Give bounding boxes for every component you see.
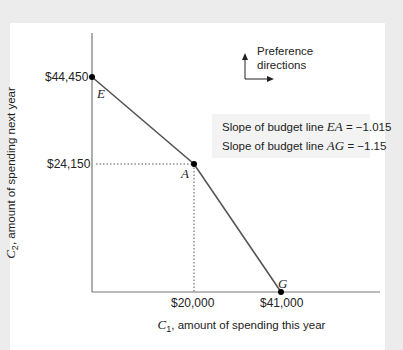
y-tick-44450: $44,450 — [45, 70, 88, 84]
point-e-label: E — [97, 86, 105, 102]
budget-line — [92, 77, 281, 292]
x-axis-label: C1, amount of spending this year — [0, 317, 403, 334]
preference-label-line2: directions — [257, 59, 306, 71]
point-g-label: G — [278, 276, 287, 292]
point-a-label: A — [181, 166, 189, 182]
x-tick-41000: $41,000 — [260, 296, 303, 310]
x-tick-20000: $20,000 — [171, 296, 214, 310]
slope-annotation-box: Slope of budget line EA = −1.015 Slope o… — [212, 114, 370, 158]
slope-ea-text: Slope of budget line EA = −1.015 — [222, 119, 391, 135]
preference-label-line1: Preference — [257, 45, 313, 57]
point-e-marker — [89, 74, 95, 80]
slope-ag-text: Slope of budget line AG = −1.15 — [222, 138, 386, 154]
y-tick-24150: $24,150 — [47, 157, 90, 171]
point-a-marker — [191, 161, 197, 167]
